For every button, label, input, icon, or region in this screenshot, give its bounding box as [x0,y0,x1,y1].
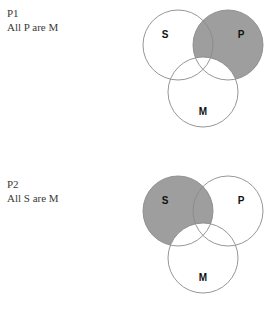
circle-label-m: M [199,106,207,117]
premise-1-tag: P1 [7,6,58,20]
venn-svg-premise-2: S P M [140,168,270,303]
circle-label-s: S [162,29,169,40]
venn-diagram-premise-1: S P M [140,2,270,137]
premise-2-statement: All S are M [7,191,59,205]
premise-1-label: P1 All P are M [7,6,58,34]
venn-svg-premise-1: S P M [140,2,270,137]
circle-label-p: P [238,195,245,206]
circle-label-p: P [238,29,245,40]
venn-diagram-premise-2: S P M [140,168,270,303]
circle-label-s: S [162,195,169,206]
premise-2-tag: P2 [7,177,59,191]
premise-1-statement: All P are M [7,20,58,34]
circle-label-m: M [199,272,207,283]
premise-2-label: P2 All S are M [7,177,59,205]
